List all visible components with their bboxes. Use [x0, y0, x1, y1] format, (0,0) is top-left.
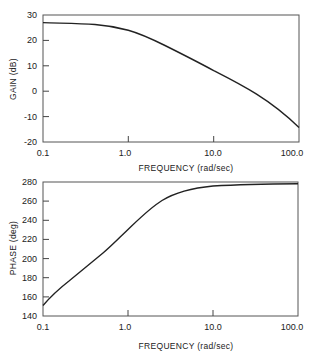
gain-ytick: -10 — [24, 112, 37, 122]
gain-ytick: 0 — [32, 86, 37, 96]
phase-xlabel: FREQUENCY (rad/sec) — [139, 341, 234, 351]
phase-ytick: 140 — [22, 311, 37, 321]
gain-xtick: 0.1 — [37, 148, 50, 158]
gain-ytick: 10 — [27, 61, 37, 71]
gain-xtick: 100.0 — [281, 148, 304, 158]
phase-ytick: 220 — [22, 234, 37, 244]
phase-xtick: 100.0 — [281, 322, 304, 332]
gain-ytick: 20 — [27, 35, 37, 45]
gain-chart: 30 20 10 0 -10 -20 0.1 1.0 10.0 100.0 FR… — [8, 10, 303, 173]
phase-ytick: 280 — [22, 177, 37, 187]
gain-ylabel: GAIN (dB) — [8, 58, 18, 100]
phase-ytick: 260 — [22, 196, 37, 206]
gain-curve — [43, 23, 299, 128]
phase-ytick: 200 — [22, 254, 37, 264]
gain-ytick: 30 — [27, 10, 37, 20]
phase-ytick: 240 — [22, 215, 37, 225]
phase-chart: 280 260 240 220 200 180 160 140 0.1 1.0 … — [8, 177, 303, 351]
gain-ytick: -20 — [24, 137, 37, 147]
gain-xtick: 1.0 — [119, 148, 132, 158]
phase-ytick: 160 — [22, 292, 37, 302]
phase-ylabel: PHASE (deg) — [8, 221, 18, 275]
phase-curve — [43, 184, 298, 306]
gain-xlabel: FREQUENCY (rad/sec) — [139, 163, 234, 173]
phase-plot-frame — [43, 182, 298, 316]
gain-xtick: 10.0 — [204, 148, 222, 158]
phase-xtick: 10.0 — [204, 322, 222, 332]
bode-plot: 30 20 10 0 -10 -20 0.1 1.0 10.0 100.0 FR… — [0, 0, 312, 359]
phase-ytick: 180 — [22, 273, 37, 283]
phase-xtick: 1.0 — [119, 322, 132, 332]
phase-xtick: 0.1 — [37, 322, 50, 332]
gain-plot-frame — [43, 15, 299, 142]
